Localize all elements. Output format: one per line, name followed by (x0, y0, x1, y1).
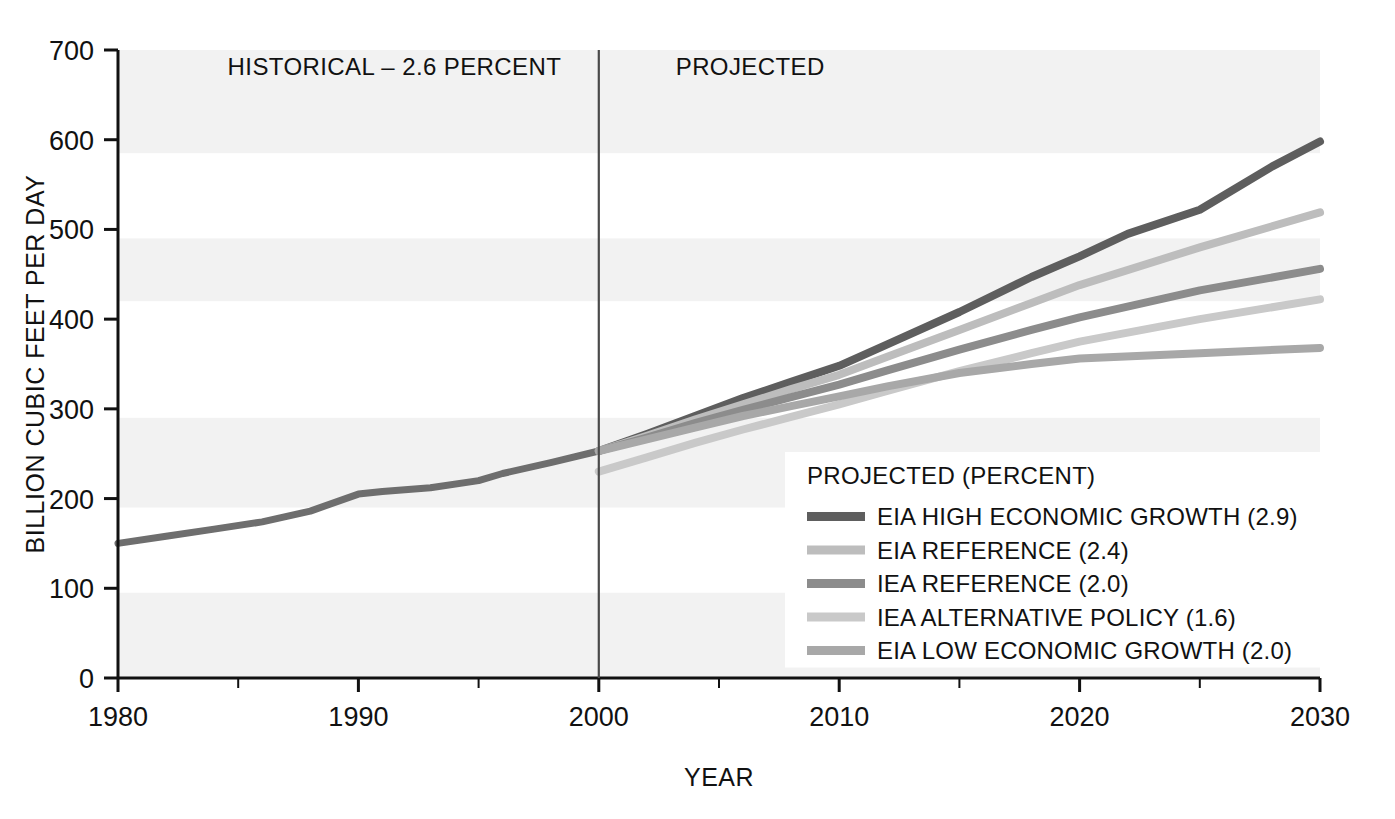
legend-swatch (807, 646, 865, 655)
legend-item-label[interactable]: EIA HIGH ECONOMIC GROWTH (2.9) (877, 503, 1298, 530)
x-tick-label: 2000 (569, 702, 629, 732)
legend-item-label[interactable]: EIA LOW ECONOMIC GROWTH (2.0) (877, 637, 1292, 664)
y-axis-title: BILLION CUBIC FEET PER DAY (21, 175, 49, 554)
natural-gas-consumption-line-chart: 0100200300400500600700198019902000201020… (0, 0, 1395, 819)
y-tick-label: 300 (49, 395, 94, 425)
legend-swatch (807, 613, 865, 622)
y-tick-label: 700 (49, 36, 94, 66)
y-tick-label: 0 (79, 664, 94, 694)
x-axis-title: YEAR (684, 763, 754, 791)
y-tick-label: 200 (49, 485, 94, 515)
chart-annotation: HISTORICAL – 2.6 PERCENT (228, 53, 562, 80)
y-tick-label: 400 (49, 305, 94, 335)
x-tick-label: 2030 (1290, 702, 1350, 732)
chart-annotation: PROJECTED (676, 53, 825, 80)
legend-swatch (807, 512, 865, 521)
legend-swatch (807, 546, 865, 555)
y-tick-label: 100 (49, 574, 94, 604)
legend-swatch (807, 579, 865, 588)
legend-title: PROJECTED (PERCENT) (807, 462, 1095, 489)
x-tick-label: 1990 (328, 702, 388, 732)
legend-item-label[interactable]: EIA REFERENCE (2.4) (877, 537, 1129, 564)
legend: PROJECTED (PERCENT)EIA HIGH ECONOMIC GRO… (785, 452, 1320, 668)
annotations: HISTORICAL – 2.6 PERCENTPROJECTED (228, 53, 825, 80)
chart-figure: 0100200300400500600700198019902000201020… (0, 0, 1395, 819)
y-tick-label: 600 (49, 126, 94, 156)
x-tick-label: 2020 (1050, 702, 1110, 732)
x-tick-label: 1980 (88, 702, 148, 732)
legend-item-label[interactable]: IEA ALTERNATIVE POLICY (1.6) (877, 604, 1236, 631)
legend-item-label[interactable]: IEA REFERENCE (2.0) (877, 570, 1129, 597)
x-tick-label: 2010 (809, 702, 869, 732)
y-tick-label: 500 (49, 215, 94, 245)
